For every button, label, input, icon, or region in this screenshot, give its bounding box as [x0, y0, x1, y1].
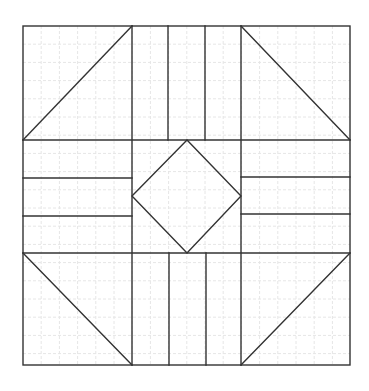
quilt-block-diagram [0, 0, 369, 391]
background-grid [23, 26, 350, 365]
